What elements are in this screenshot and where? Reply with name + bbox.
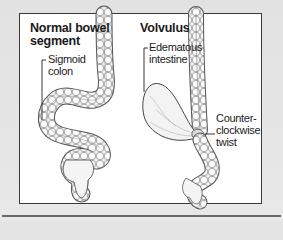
sigmoid-colon-label: Sigmoid colon — [48, 53, 86, 77]
label-line: Sigmoid — [48, 53, 86, 65]
edematous-leader-line — [144, 48, 148, 92]
counterclockwise-twist-label: Counter- clockwise twist — [216, 112, 260, 148]
heading-line: segment — [30, 35, 110, 48]
heading-line: Volvulus — [140, 22, 190, 35]
normal-segment-heading: Normal bowel segment — [30, 22, 110, 48]
volvulus-heading: Volvulus — [140, 22, 190, 35]
edematous-intestine-label: Edematous intestine — [149, 41, 202, 65]
label-line: twist — [216, 136, 260, 148]
bottom-divider — [2, 215, 281, 217]
label-line: Counter- — [216, 112, 260, 124]
label-line: Edematous — [149, 41, 202, 53]
label-line: clockwise — [216, 124, 260, 136]
label-line: colon — [48, 65, 86, 77]
label-line: intestine — [149, 53, 202, 65]
